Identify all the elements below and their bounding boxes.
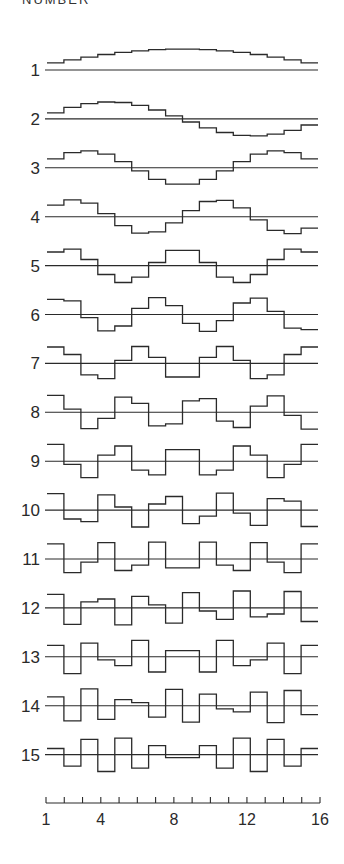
waveform-row: 1 (31, 49, 318, 80)
x-axis: 1481216 (42, 797, 329, 828)
step-waveform (47, 49, 318, 63)
header-title: NUMBER (22, 0, 90, 7)
row-label: 12 (21, 599, 40, 618)
waveform-row: 2 (31, 102, 318, 136)
waveform-row: 4 (31, 200, 318, 234)
axis-tick-label: 8 (169, 811, 178, 828)
row-label: 8 (31, 403, 40, 422)
waveform-row: 5 (31, 249, 318, 282)
row-label: 4 (31, 208, 40, 227)
waveform-row: 11 (22, 542, 318, 573)
step-waveform (47, 347, 318, 379)
waveform-row: 10 (21, 493, 318, 527)
row-label: 10 (21, 501, 40, 520)
axis-tick-label: 4 (96, 811, 105, 828)
row-label: 11 (22, 550, 40, 569)
axis-tick-label: 1 (42, 811, 51, 828)
waveform-rows: 123456789101112131415 (21, 49, 318, 771)
row-label: 5 (31, 257, 40, 276)
basis-function-figure: NUMBER 123456789101112131415 1481216 (0, 0, 344, 864)
row-label: 9 (31, 452, 40, 471)
axis-tick-label: 16 (311, 811, 329, 828)
row-label: 13 (21, 648, 40, 667)
waveform-row: 7 (31, 347, 318, 379)
waveform-row: 14 (21, 689, 318, 723)
waveform-row: 6 (31, 298, 318, 332)
row-label: 6 (31, 306, 40, 325)
waveform-row: 8 (31, 395, 318, 429)
row-label: 14 (21, 697, 40, 716)
row-label: 1 (31, 61, 40, 80)
waveform-row: 3 (31, 151, 318, 184)
waveform-row: 12 (21, 591, 318, 625)
row-label: 15 (21, 746, 40, 765)
waveform-row: 15 (21, 738, 318, 771)
row-label: 3 (31, 159, 40, 178)
step-waveform (47, 542, 318, 573)
row-label: 7 (31, 354, 40, 373)
waveform-plot: 123456789101112131415 1481216 (0, 0, 344, 864)
waveform-row: 9 (31, 444, 318, 477)
row-label: 2 (31, 110, 40, 129)
axis-tick-label: 12 (238, 811, 256, 828)
waveform-row: 13 (21, 640, 318, 673)
